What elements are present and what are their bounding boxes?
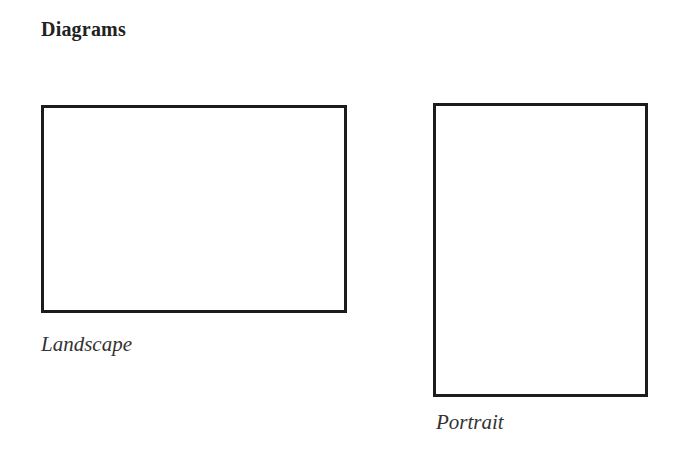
portrait-rectangle	[433, 103, 648, 397]
landscape-label: Landscape	[41, 332, 132, 357]
page-title: Diagrams	[41, 18, 126, 41]
portrait-label: Portrait	[436, 410, 504, 435]
landscape-rectangle	[41, 105, 347, 313]
